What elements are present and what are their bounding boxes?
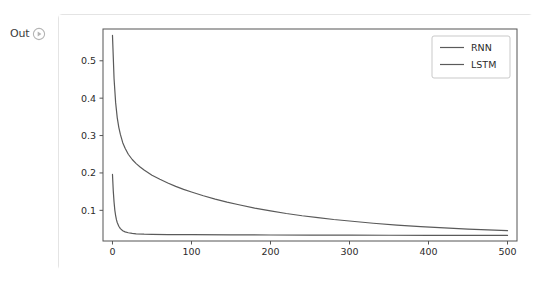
notebook-output-cell[interactable]: 0.10.20.30.40.5 0100200300400500 RNNLSTM bbox=[58, 14, 533, 270]
x-tick-label: 300 bbox=[340, 246, 358, 257]
chart-canvas: 0.10.20.30.40.5 0100200300400500 RNNLSTM bbox=[59, 15, 534, 271]
output-prompt-label: Out bbox=[10, 27, 29, 40]
output-prompt: Out bbox=[10, 26, 46, 40]
y-tick-label: 0.5 bbox=[81, 55, 96, 66]
y-tick-label: 0.4 bbox=[81, 93, 96, 104]
chart-legend: RNNLSTM bbox=[432, 36, 510, 78]
legend-label-rnn: RNN bbox=[471, 42, 492, 53]
x-tick-label: 200 bbox=[261, 246, 279, 257]
x-tick-label: 0 bbox=[109, 246, 115, 257]
legend-label-lstm: LSTM bbox=[471, 59, 496, 70]
x-tick-label: 100 bbox=[182, 246, 200, 257]
y-tick-label: 0.1 bbox=[81, 205, 96, 216]
loss-curve-figure: 0.10.20.30.40.5 0100200300400500 RNNLSTM bbox=[59, 15, 534, 271]
x-tick-label: 500 bbox=[498, 246, 516, 257]
run-circle-icon[interactable] bbox=[32, 27, 46, 41]
y-tick-label: 0.2 bbox=[81, 167, 96, 178]
x-tick-label: 400 bbox=[419, 246, 437, 257]
y-tick-label: 0.3 bbox=[81, 130, 96, 141]
